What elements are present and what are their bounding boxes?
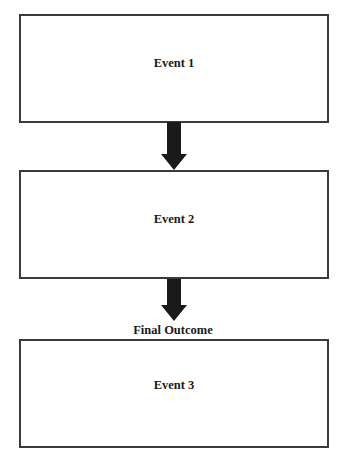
arrow-down-icon xyxy=(161,279,187,321)
event-3-box: Event 3 xyxy=(19,339,329,448)
arrow-down-icon xyxy=(161,122,187,170)
event-1-box: Event 1 xyxy=(19,14,329,123)
event-1-label: Event 1 xyxy=(21,56,327,71)
event-3-label: Event 3 xyxy=(21,378,327,393)
event-2-box: Event 2 xyxy=(19,170,329,279)
event-2-label: Event 2 xyxy=(21,212,327,227)
final-outcome-caption: Final Outcome xyxy=(0,323,346,338)
